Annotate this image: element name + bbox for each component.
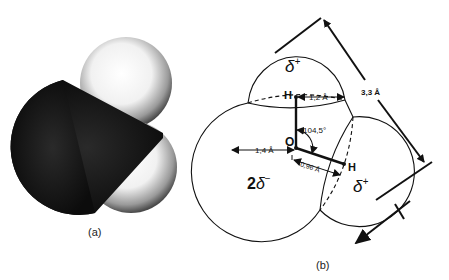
label-molecule-length: 3,3 Å [361, 88, 380, 97]
space-filling-model [11, 37, 177, 215]
charge-right-hydrogen: δ+ [353, 176, 368, 196]
oxygen-circle [191, 103, 320, 242]
charge-oxygen: 2δ− [247, 173, 271, 192]
label-o-radius: 1,4 Å [255, 146, 274, 155]
water-molecule-figure: (a) [0, 0, 449, 280]
hydrogen-circle-right [320, 117, 414, 227]
label-bond-angle: 104,5° [303, 126, 326, 135]
caption-a: (a) [88, 226, 101, 238]
caption-b: (b) [316, 259, 329, 271]
dipole-arrow [356, 201, 410, 243]
label-hydrogen-right: H [348, 161, 356, 173]
label-oxygen: O [285, 135, 294, 149]
label-hydrogen-top: H [284, 89, 292, 101]
charge-top-hydrogen: δ+ [285, 56, 300, 76]
label-h-radius: 1,2 Å [309, 93, 328, 102]
label-bond-length: 0,96 Å [299, 159, 321, 173]
